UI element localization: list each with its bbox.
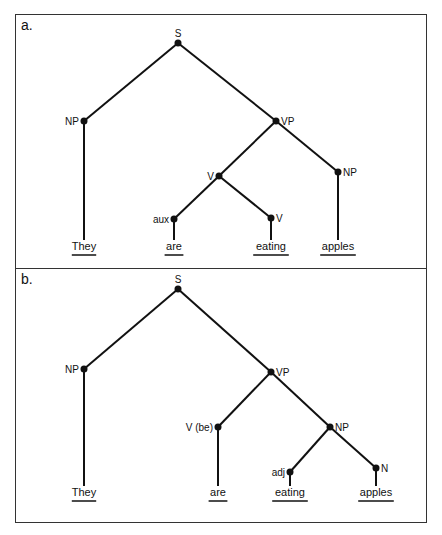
- tree-edge: [330, 427, 376, 468]
- node-dot: [327, 424, 334, 431]
- tree-edge: [178, 289, 271, 372]
- tree-panel-a: TheyareeatingapplesSNPVPVNPauxV: [65, 28, 357, 255]
- node-label-vbe: V (be): [186, 422, 213, 433]
- word-they: They: [72, 486, 97, 498]
- node-dot: [171, 216, 178, 223]
- node-label-s: S: [175, 274, 182, 285]
- tree-edge: [84, 43, 178, 121]
- word-apples: apples: [360, 486, 393, 498]
- node-dot: [287, 469, 294, 476]
- node-dot: [175, 40, 182, 47]
- word-they: They: [72, 240, 97, 252]
- tree-edge: [178, 43, 276, 121]
- tree-edge: [218, 372, 271, 427]
- node-dot: [216, 173, 223, 180]
- node-label-adj: adj: [272, 467, 285, 478]
- node-dot: [335, 169, 342, 176]
- node-label-np1: NP: [65, 364, 79, 375]
- node-dot: [273, 118, 280, 125]
- node-label-v: V: [207, 171, 214, 182]
- tree-edge: [219, 121, 276, 176]
- node-label-aux: aux: [153, 214, 169, 225]
- node-dot: [268, 215, 275, 222]
- node-dot: [175, 286, 182, 293]
- node-dot: [81, 118, 88, 125]
- tree-edge: [84, 289, 178, 369]
- tree-edge: [276, 121, 338, 172]
- node-label-n: N: [381, 463, 388, 474]
- word-eating: eating: [256, 240, 286, 252]
- tree-edge: [174, 176, 219, 219]
- tree-panel-b: TheyareeatingapplesSNPVPV (be)NPadjN: [65, 274, 394, 501]
- word-eating: eating: [275, 486, 305, 498]
- word-apples: apples: [322, 240, 355, 252]
- node-label-vp: VP: [281, 116, 295, 127]
- node-dot: [373, 465, 380, 472]
- node-dot: [215, 424, 222, 431]
- node-label-s: S: [175, 28, 182, 39]
- tree-edge: [219, 176, 271, 218]
- node-label-np1: NP: [65, 116, 79, 127]
- node-dot: [81, 366, 88, 373]
- node-dot: [268, 369, 275, 376]
- node-label-np2: NP: [335, 422, 349, 433]
- node-label-vp: VP: [276, 367, 290, 378]
- tree-edge: [271, 372, 330, 427]
- node-label-v2: V: [276, 213, 283, 224]
- node-label-np2: NP: [343, 167, 357, 178]
- word-are: are: [210, 486, 226, 498]
- tree-edge: [290, 427, 330, 472]
- parse-trees: TheyareeatingapplesSNPVPVNPauxVTheyareea…: [0, 0, 442, 535]
- word-are: are: [166, 240, 182, 252]
